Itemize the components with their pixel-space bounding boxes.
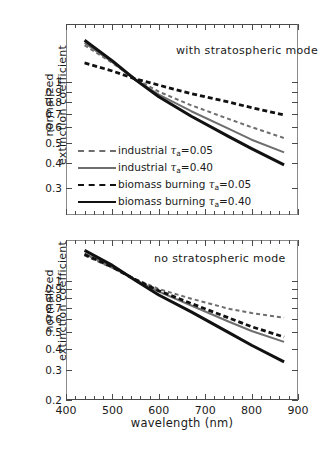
y-tick-right [292, 114, 298, 115]
x-tick-top [196, 240, 197, 244]
x-tick-top [224, 24, 225, 28]
y-tick-label: 0.3 [34, 182, 62, 194]
y-tick-right [292, 319, 298, 320]
x-tick [94, 211, 95, 215]
series-line [85, 43, 285, 152]
x-tick-top [196, 24, 197, 28]
x-tick [103, 396, 104, 400]
x-tick [233, 211, 234, 215]
x-tick [242, 396, 243, 400]
legend-item-industrial-040: industrial τa=0.40 [78, 159, 251, 176]
y-axis-title-top: normalized extinction coefficient [43, 45, 69, 165]
y-tick-right [292, 400, 298, 401]
x-tick [298, 209, 299, 215]
y-axis-title-top-line2: extinction coefficient [56, 45, 69, 165]
x-tick-top [205, 240, 206, 246]
x-tick-top [298, 240, 299, 246]
x-tick [279, 211, 280, 215]
y-tick-right [292, 102, 298, 103]
y-axis-title-bottom-line2: extinction coefficient [56, 241, 69, 361]
panel-note-top: with stratospheric mode [176, 44, 318, 57]
x-tick-top [242, 240, 243, 244]
x-tick [131, 396, 132, 400]
legend-label-industrial-040: industrial τa=0.40 [118, 161, 213, 175]
x-tick [242, 211, 243, 215]
x-tick [94, 396, 95, 400]
x-tick-top [122, 24, 123, 28]
x-tick-top [279, 24, 280, 28]
x-tick-top [159, 240, 160, 246]
x-tick-top [94, 24, 95, 28]
x-tick [122, 396, 123, 400]
legend: industrial τa=0.05 industrial τa=0.40 bi… [78, 142, 251, 210]
x-tick-top [187, 24, 188, 28]
x-tick [252, 209, 253, 215]
x-tick-top [75, 240, 76, 244]
x-tick-top [289, 240, 290, 244]
x-tick [196, 396, 197, 400]
x-tick-top [103, 240, 104, 244]
x-tick [177, 211, 178, 215]
series-line [85, 45, 285, 138]
x-tick-top [131, 240, 132, 244]
x-tick-top [233, 24, 234, 28]
x-tick-top [112, 24, 113, 30]
x-tick-top [252, 240, 253, 246]
y-axis-title-top-line1: normalized [43, 45, 56, 165]
y-tick-label: 0.3 [34, 364, 62, 376]
x-tick [150, 396, 151, 400]
x-tick [85, 396, 86, 400]
x-tick [270, 211, 271, 215]
x-tick [289, 211, 290, 215]
x-tick-top [168, 24, 169, 28]
x-tick [196, 211, 197, 215]
x-tick [252, 394, 253, 400]
x-tick-top [177, 24, 178, 28]
x-tick [140, 211, 141, 215]
x-tick-top [261, 24, 262, 28]
x-tick [187, 396, 188, 400]
x-tick-top [270, 240, 271, 244]
x-tick [66, 209, 67, 215]
x-tick-top [150, 240, 151, 244]
x-tick-top [279, 240, 280, 244]
legend-item-biomass-005: biomass burning τa=0.05 [78, 176, 251, 193]
y-tick-right [292, 281, 298, 282]
y-tick-right [292, 92, 298, 93]
x-tick-top [140, 24, 141, 28]
x-tick [131, 211, 132, 215]
x-tick [75, 211, 76, 215]
x-tick [214, 396, 215, 400]
x-tick-top [233, 240, 234, 244]
x-tick [187, 211, 188, 215]
x-tick [289, 396, 290, 400]
x-tick-top [85, 24, 86, 28]
legend-label-biomass-005: biomass burning τa=0.05 [118, 178, 251, 192]
x-tick-top [252, 24, 253, 30]
x-tick-top [94, 240, 95, 244]
x-tick-top [224, 240, 225, 244]
x-tick-top [168, 240, 169, 244]
y-tick-right [292, 332, 298, 333]
legend-swatch-black-dashed-icon [78, 184, 116, 186]
legend-item-biomass-040: biomass burning τa=0.40 [78, 193, 251, 210]
x-tick [75, 396, 76, 400]
x-tick [224, 396, 225, 400]
legend-swatch-gray-solid-icon [78, 167, 116, 169]
x-tick [168, 396, 169, 400]
panel-note-bottom: no stratospheric mode [154, 252, 286, 265]
x-tick [140, 396, 141, 400]
x-tick-top [205, 24, 206, 30]
plot-panel-top: with stratospheric mode 10.90.80.70.60.5… [66, 24, 298, 215]
y-tick-right [292, 188, 298, 189]
x-tick-top [261, 240, 262, 244]
x-tick [168, 211, 169, 215]
x-tick [150, 211, 151, 215]
y-tick-right [292, 370, 298, 371]
legend-item-industrial-005: industrial τa=0.05 [78, 142, 251, 159]
x-tick [205, 394, 206, 400]
x-tick [261, 211, 262, 215]
x-tick-top [66, 24, 67, 30]
x-tick [224, 211, 225, 215]
y-tick [66, 370, 72, 371]
